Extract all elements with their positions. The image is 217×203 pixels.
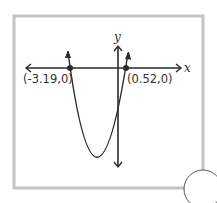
right-intercept-label: (0.52,0) [127,72,173,86]
x-axis-label: x [184,61,191,75]
y-axis-label: y [113,30,121,44]
right-intercept-point [123,65,129,71]
graph-figure: x y (-3.19,0) (0.52,0) [0,0,217,203]
graph-frame [14,16,203,188]
left-intercept-point [67,65,73,71]
left-intercept-label: (-3.19,0) [23,72,73,86]
